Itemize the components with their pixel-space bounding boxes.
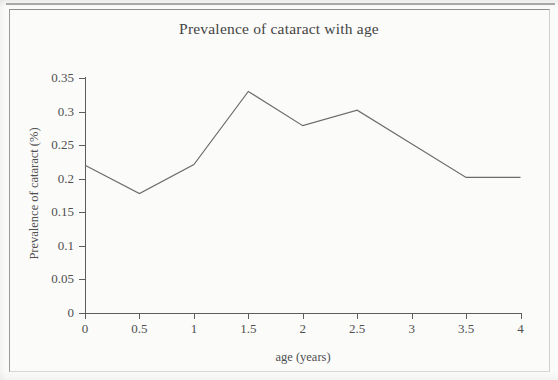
data-series-svg: [0, 0, 558, 380]
x-axis-title: age (years): [85, 350, 521, 365]
scanned-figure-page: Prevalence of cataract with age 00.050.1…: [0, 0, 558, 380]
plot-area: 00.050.10.150.20.250.30.35 00.511.522.53…: [0, 0, 558, 380]
prevalence-line: [85, 91, 521, 193]
y-axis-title: Prevalence of cataract (%): [27, 89, 42, 299]
